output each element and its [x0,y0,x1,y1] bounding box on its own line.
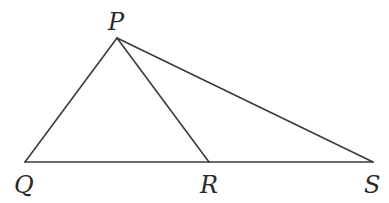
segment-pr [117,38,209,162]
vertex-label-r: R [199,171,218,199]
vertex-label-q: Q [14,171,34,199]
triangle-diagram: P Q R S [0,0,389,203]
segment-pq [25,38,117,162]
vertex-label-p: P [107,8,125,36]
segment-ps [117,38,373,162]
vertex-label-s: S [364,171,380,199]
